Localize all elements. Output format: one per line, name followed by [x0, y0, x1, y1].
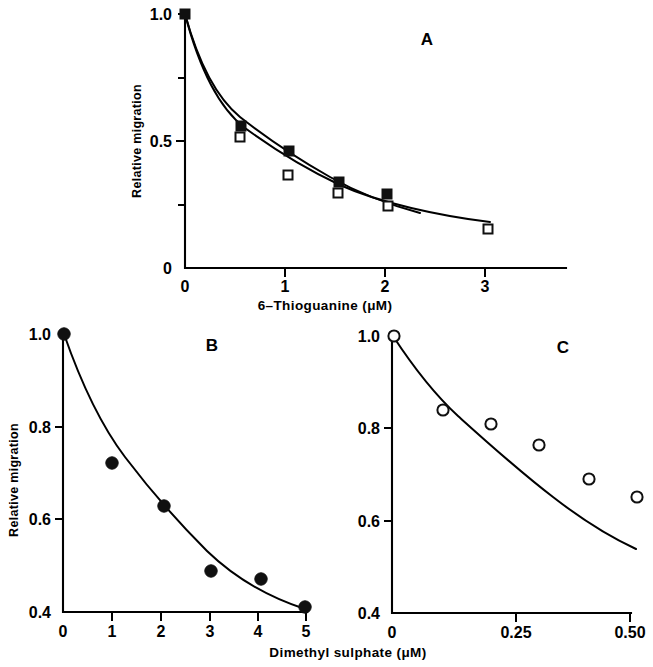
panel-c-xticklabel-0.25: 0.25 [500, 624, 531, 641]
panel-c: 1.0 0.8 0.6 0.4 0 0.25 0.50 C [358, 328, 646, 641]
panel-c-axes [392, 336, 631, 613]
panel-b-xticklabel-3: 3 [206, 623, 215, 640]
panel-b-xaxis-title: Dimethyl sulphate (μM) [269, 645, 426, 660]
panel-c-yticklabel-1.0: 1.0 [358, 328, 380, 345]
panel-b-point-4 [255, 573, 267, 585]
panel-b-yticklabel-0.6: 0.6 [29, 511, 51, 528]
panel-b-xticklabel-5: 5 [302, 623, 311, 640]
panel-c-point-3 [533, 439, 544, 450]
panel-a-filled-square-4 [382, 189, 392, 199]
panel-c-point-0 [388, 330, 399, 341]
panel-b-axes [63, 334, 307, 612]
panel-b-xticklabel-1: 1 [108, 623, 117, 640]
figure-svg: 1.0 0.5 0 0 1 2 3 6–Thioguanine (μM) Rel… [0, 0, 653, 667]
panel-b-point-0 [58, 328, 70, 340]
panel-a: 1.0 0.5 0 0 1 2 3 6–Thioguanine (μM) Rel… [130, 6, 566, 313]
panel-a-open-square-1 [236, 133, 245, 142]
panel-b-yaxis-title: Relative migration [7, 423, 21, 537]
panel-c-point-5 [631, 491, 642, 502]
panel-a-filled-square-0 [181, 10, 189, 18]
panel-a-xticklabel-2: 2 [381, 278, 390, 295]
panel-a-xticklabel-0: 0 [181, 278, 190, 295]
panel-c-point-4 [583, 473, 594, 484]
panel-a-label: A [421, 30, 433, 49]
panel-c-curve [393, 336, 636, 549]
panel-c-label: C [557, 338, 569, 357]
panel-a-filled-square-1 [236, 121, 246, 131]
panel-b-yticklabel-1.0: 1.0 [29, 326, 51, 343]
panel-b-xticklabel-4: 4 [254, 623, 263, 640]
panel-a-filled-square-2 [284, 146, 294, 156]
panel-b-yticklabel-0.8: 0.8 [29, 419, 51, 436]
panel-b-label: B [206, 336, 218, 355]
panel-a-filled-square-3 [334, 177, 344, 187]
panel-a-xticklabel-3: 3 [481, 278, 490, 295]
panel-a-open-square-3 [334, 189, 343, 198]
panel-b-yticklabel-0.4: 0.4 [29, 604, 51, 621]
panel-a-open-square-2 [284, 171, 293, 180]
panel-a-yaxis-title: Relative migration [130, 84, 144, 198]
panel-b-point-1 [106, 457, 118, 469]
panel-b-xticklabel-2: 2 [157, 623, 166, 640]
panel-c-xticklabel-0.50: 0.50 [614, 624, 645, 641]
panel-a-xaxis-title: 6–Thioguanine (μM) [258, 298, 393, 313]
panel-c-yticklabel-0.4: 0.4 [358, 605, 380, 622]
panel-c-point-1 [437, 404, 448, 415]
panel-a-yticklabel-0: 0 [163, 260, 172, 277]
panel-a-yticklabel-1.0: 1.0 [150, 6, 172, 23]
panel-c-yticklabel-0.6: 0.6 [358, 513, 380, 530]
panel-c-yticklabel-0.8: 0.8 [358, 420, 380, 437]
figure-root: 1.0 0.5 0 0 1 2 3 6–Thioguanine (μM) Rel… [0, 0, 653, 667]
panel-a-open-square-5 [484, 225, 493, 234]
panel-b-point-3 [205, 565, 217, 577]
panel-b-point-5 [299, 601, 311, 613]
panel-a-xticklabel-1: 1 [281, 278, 290, 295]
panel-b-curve [64, 334, 305, 609]
panel-a-curve-upper [185, 14, 420, 213]
panel-a-yticklabel-0.5: 0.5 [150, 133, 172, 150]
panel-c-xticklabel-0: 0 [388, 624, 397, 641]
panel-b-point-2 [158, 500, 170, 512]
panel-a-open-square-4 [384, 202, 393, 211]
panel-c-point-2 [485, 418, 496, 429]
panel-b-xticklabel-0: 0 [59, 623, 68, 640]
